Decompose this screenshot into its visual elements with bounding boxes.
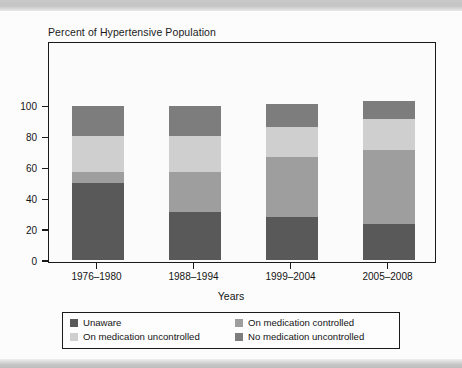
plot-area (49, 43, 435, 262)
legend-label: On medication controlled (248, 317, 354, 329)
bar-segment (169, 212, 221, 260)
bars-layer (49, 43, 435, 262)
legend-item: No medication uncontrolled (235, 331, 392, 343)
x-axis-tick-mark (193, 263, 194, 269)
x-axis-tick-mark (387, 263, 388, 269)
bar-segment (169, 106, 221, 137)
legend-label: On medication uncontrolled (83, 331, 200, 343)
x-axis-tick-label: 1999–2004 (265, 271, 315, 282)
x-axis-tick-label: 1988–1994 (168, 271, 218, 282)
legend-label: Unaware (83, 317, 121, 329)
legend-item: On medication controlled (235, 317, 392, 329)
legend-swatch (70, 333, 78, 341)
bar-stack (363, 101, 415, 260)
bar-segment (72, 172, 124, 183)
legend-grid: UnawareOn medication controlledOn medica… (70, 317, 392, 343)
legend-label: No medication uncontrolled (248, 331, 364, 343)
bar-segment (363, 150, 415, 224)
x-axis-tick-mark (290, 263, 291, 269)
x-axis-tick-label: 2005–2008 (362, 271, 412, 282)
bar-segment (363, 224, 415, 260)
bar-segment (266, 127, 318, 156)
bar-segment (266, 217, 318, 260)
legend-swatch (235, 333, 243, 341)
y-axis-tick-label: 0 (31, 255, 42, 266)
bar-segment (266, 157, 318, 217)
legend-item: On medication uncontrolled (70, 331, 227, 343)
bar-segment (169, 136, 221, 172)
y-axis-tick-label: 80 (26, 131, 42, 142)
y-axis-tick-mark (42, 168, 48, 169)
y-axis-tick-mark (42, 106, 48, 107)
legend-swatch (235, 319, 243, 327)
bar-segment (72, 106, 124, 137)
legend-item: Unaware (70, 317, 227, 329)
y-axis: 020406080100 (0, 42, 48, 263)
y-axis-tick-mark (42, 260, 48, 261)
bar-segment (363, 101, 415, 120)
legend: UnawareOn medication controlledOn medica… (62, 312, 400, 349)
y-axis-tick-label: 60 (26, 162, 42, 173)
screenshot-page: Percent of Hypertensive Population 02040… (0, 0, 462, 368)
bar-segment (363, 119, 415, 150)
y-axis-tick-mark (42, 199, 48, 200)
bar-stack (169, 106, 221, 260)
x-axis-tick-mark (96, 263, 97, 269)
plot-frame (48, 42, 436, 263)
bar-segment (72, 136, 124, 172)
bar-segment (266, 104, 318, 127)
chart-title: Percent of Hypertensive Population (48, 26, 216, 38)
y-axis-tick-label: 40 (26, 193, 42, 204)
y-axis-tick-mark (42, 137, 48, 138)
scan-band-bottom (0, 359, 462, 368)
y-axis-tick-label: 100 (20, 101, 42, 112)
y-axis-tick-mark (42, 229, 48, 230)
x-axis-tick-label: 1976–1980 (71, 271, 121, 282)
x-axis-title: Years (0, 290, 462, 302)
bar-segment (72, 183, 124, 260)
bar-stack (266, 104, 318, 260)
bar-segment (169, 172, 221, 212)
bar-stack (72, 106, 124, 260)
legend-swatch (70, 319, 78, 327)
y-axis-tick-label: 20 (26, 224, 42, 235)
scan-band-top (0, 0, 462, 11)
